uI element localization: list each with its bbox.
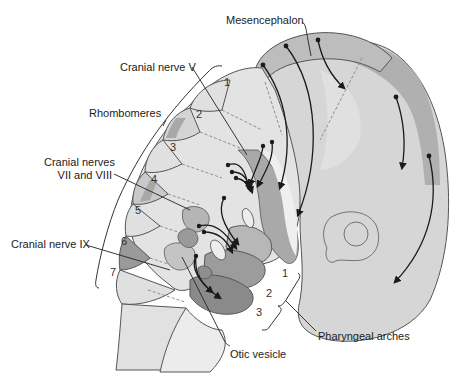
rhombomere-number-7: 7 <box>110 267 116 278</box>
label-cranial-nerve-ix: Cranial nerve IX <box>11 238 90 250</box>
rhombomere-number-3: 3 <box>170 142 176 153</box>
label-mesencephalon: Mesencephalon <box>226 14 304 26</box>
rhombomere-number-2: 2 <box>196 109 202 120</box>
arch-number-2: 2 <box>266 288 272 299</box>
rhombomere-number-6: 6 <box>121 236 127 247</box>
label-cranial-nerve-v: Cranial nerve V <box>120 61 196 73</box>
label-pharyngeal-arches: Pharyngeal arches <box>318 330 410 342</box>
rhombomere-number-5: 5 <box>135 205 141 216</box>
arch-number-1: 1 <box>282 268 288 279</box>
label-rhombomeres: Rhombomeres <box>89 107 161 119</box>
rhombomere-number-4: 4 <box>151 174 157 185</box>
rhombomere-number-1: 1 <box>224 77 230 88</box>
label-cranial-nerves-vii-viii-line2: VII and VIII <box>44 169 112 181</box>
embryo-diagram <box>0 0 464 379</box>
pharyngeal-arches-bracket <box>262 273 300 330</box>
arch-number-3: 3 <box>256 307 262 318</box>
label-cranial-nerves-vii-viii-line1: Cranial nerves <box>44 156 112 168</box>
label-otic-vesicle: Otic vesicle <box>230 348 286 360</box>
